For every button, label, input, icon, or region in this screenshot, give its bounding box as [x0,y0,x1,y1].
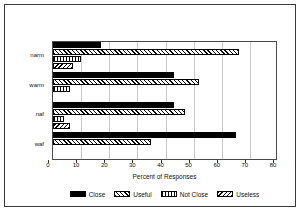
x-tick-label: 80 [270,162,277,168]
legend-item: Not Close [161,191,209,198]
x-tick-label: 60 [213,162,220,168]
legend-label: Close [89,191,106,198]
legend-item: Useless [217,191,259,198]
x-axis-title: Percent of Responses [52,173,277,180]
bar [53,116,64,122]
plot-area [52,41,277,160]
y-axis-label: narm [2,52,44,59]
x-tick-label: 20 [101,162,108,168]
x-tick-label: 10 [73,162,80,168]
x-tick-label: 70 [242,162,249,168]
y-axis-label: naf [2,111,44,118]
bar [53,63,73,69]
bar [53,49,239,55]
bar [53,72,174,78]
bar-group [53,42,276,72]
bar-group [53,102,276,132]
y-axis-label: waf [2,141,44,148]
legend-label: Useful [133,191,151,198]
chart-frame: 01020304050607080 Percent of Responses C… [4,4,296,207]
legend-swatch-useful [114,191,130,197]
bar [53,42,101,48]
legend-swatch-close [70,191,86,197]
bar-group [53,72,276,102]
chart-legend: CloseUsefulNot CloseUseless [52,188,277,200]
bar [53,109,185,115]
legend-item: Close [70,191,106,198]
y-axis-label: warm [2,82,44,89]
x-tick-label: 50 [185,162,192,168]
legend-label: Not Close [180,191,209,198]
bar [53,123,70,129]
x-tick-label: 0 [46,162,49,168]
bar [53,86,70,92]
bar [53,139,151,145]
x-tick-label: 30 [129,162,136,168]
x-tick-label: 40 [157,162,164,168]
bar [53,102,174,108]
bar [53,79,199,85]
bar-group [53,131,276,161]
bar [53,56,81,62]
legend-label: Useless [236,191,259,198]
legend-item: Useful [114,191,151,198]
legend-swatch-useless [217,191,233,197]
bar [53,132,236,138]
legend-swatch-not-close [161,191,177,197]
